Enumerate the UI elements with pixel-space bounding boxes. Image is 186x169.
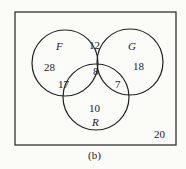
- caption: (b): [88, 149, 101, 162]
- region-r-only: 10: [89, 102, 101, 114]
- region-f-g-r: 8: [93, 65, 99, 77]
- region-outside: 20: [154, 128, 166, 140]
- region-g-only: 18: [133, 60, 145, 72]
- region-f-only: 28: [44, 61, 56, 73]
- region-f-g: 12: [89, 39, 100, 51]
- set-label-f: F: [55, 40, 63, 52]
- set-label-g: G: [128, 40, 136, 52]
- region-g-r: 7: [115, 78, 121, 90]
- circle-g: [97, 29, 163, 95]
- region-f-r: 17: [58, 78, 70, 90]
- set-label-r: R: [91, 116, 99, 128]
- venn-diagram: F G R 28 18 10 12 17 7 8 20 (b): [0, 0, 186, 169]
